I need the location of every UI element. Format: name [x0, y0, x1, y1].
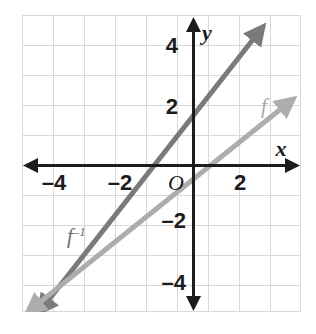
- f-inverse-exponent: –1: [72, 224, 86, 239]
- y-tick-label-pos2: 2: [166, 94, 178, 119]
- y-tick-label-pos4: 4: [166, 33, 179, 58]
- graph-figure: –4 –2 2 4 2 –2 –4 O x y f f–1: [0, 0, 316, 334]
- y-tick-label-neg2: –2: [162, 208, 186, 233]
- origin-label: O: [168, 170, 184, 195]
- y-tick-label-neg4: –4: [162, 270, 187, 295]
- x-tick-label-pos2: 2: [234, 170, 246, 195]
- x-tick-label-neg2: –2: [108, 170, 132, 195]
- coordinate-plane-svg: –4 –2 2 4 2 –2 –4 O x y f f–1: [0, 0, 316, 334]
- x-axis-label: x: [275, 136, 287, 161]
- x-tick-label-neg4: –4: [42, 170, 67, 195]
